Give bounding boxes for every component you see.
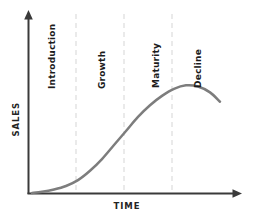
stage-label-growth: Growth: [98, 51, 107, 89]
product-life-cycle-chart: Introduction Growth Maturity Decline SAL…: [0, 0, 254, 224]
y-axis-title: SALES: [12, 102, 21, 137]
y-axis-arrowhead: [24, 10, 33, 20]
x-axis-arrowhead: [233, 189, 243, 198]
x-axis-title: TIME: [0, 202, 254, 211]
y-axis: [24, 10, 33, 194]
stage-divider-group: [76, 14, 172, 193]
x-axis: [28, 189, 243, 198]
stage-label-introduction: Introduction: [48, 24, 57, 89]
sales-curve: [32, 85, 220, 193]
chart-plot-area: [0, 0, 254, 224]
stage-label-maturity: Maturity: [152, 43, 161, 88]
stage-label-decline: Decline: [194, 49, 203, 88]
